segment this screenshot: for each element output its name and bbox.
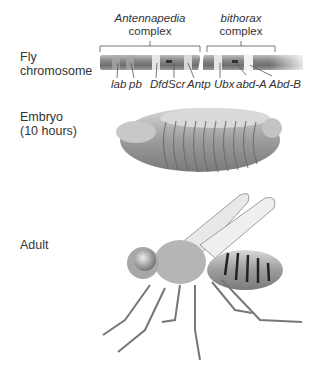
complex-name: bithorax [211,12,271,25]
antennapedia-complex-label: Antennapedia complex [110,12,190,38]
gene-label-antp: Antp [187,78,211,90]
bithorax-bracket [207,41,275,52]
embryo-label-line1: Embryo [20,110,77,124]
chromosome-bar [100,52,310,73]
complex-suffix: complex [211,25,271,38]
complex-suffix: complex [110,25,190,38]
gene-label-lab: lab [111,78,126,90]
gene-label-pb: pb [129,78,142,90]
chromosome-label-line2: chromosome [20,64,92,78]
chromosome-label-line1: Fly [20,50,92,64]
embryo-row-label: Embryo (10 hours) [20,110,77,138]
adult-fly-illustration [103,194,302,360]
bithorax-complex-label: bithorax complex [211,12,271,38]
complex-name: Antennapedia [110,12,190,25]
gene-label-abd-a: abd-A [236,78,267,90]
gene-label-abd-b: Abd-B [269,78,301,90]
embryo-label-line2: (10 hours) [20,124,77,138]
gene-label-dfd: Dfd [150,78,168,90]
adult-row-label: Adult [20,238,49,252]
gene-label-scr: Scr [168,78,185,90]
gene-label-ubx: Ubx [214,78,234,90]
antennapedia-bracket [100,41,200,52]
embryo-illustration [116,108,282,172]
chromosome-row-label: Fly chromosome [20,50,92,78]
